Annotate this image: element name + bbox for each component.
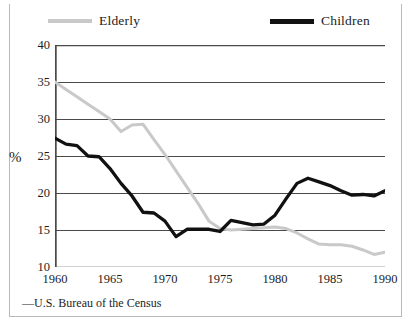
chart-legend: Elderly Children: [48, 13, 388, 33]
y-axis-label: %: [9, 149, 22, 166]
x-tick-label-1975: 1975: [198, 272, 242, 287]
x-axis-tick-labels: 1960196519701975198019851990: [0, 272, 411, 290]
legend-item-elderly: Elderly: [48, 13, 140, 29]
x-tick-label-1980: 1980: [253, 272, 297, 287]
legend-swatch-children-line-icon: [270, 19, 314, 24]
figure-frame-bottom-rule: [9, 316, 402, 317]
y-tick-label-40: 40: [28, 39, 50, 51]
legend-label-elderly: Elderly: [99, 13, 140, 29]
legend-label-children: Children: [321, 13, 370, 29]
chart-source-note: —U.S. Bureau of the Census: [22, 296, 161, 311]
x-tick-label-1965: 1965: [88, 272, 132, 287]
series-line-elderly: [55, 82, 385, 254]
y-tick-label-20: 20: [28, 187, 50, 199]
chart-figure: Elderly Children % 40353025201510 196019…: [0, 0, 411, 331]
x-tick-label-1990: 1990: [363, 272, 407, 287]
y-tick-label-25: 25: [28, 150, 50, 162]
chart-plot-area: [55, 45, 385, 267]
legend-item-children: Children: [270, 13, 370, 29]
series-line-children: [55, 138, 385, 236]
y-tick-label-30: 30: [28, 113, 50, 125]
x-tick-label-1960: 1960: [33, 272, 77, 287]
x-tick-label-1985: 1985: [308, 272, 352, 287]
legend-swatch-elderly-line-icon: [48, 19, 92, 23]
chart-plot-svg: [55, 45, 385, 267]
y-tick-label-35: 35: [28, 76, 50, 88]
x-tick-label-1970: 1970: [143, 272, 187, 287]
y-tick-label-15: 15: [28, 224, 50, 236]
figure-frame-right-rule: [401, 4, 402, 316]
